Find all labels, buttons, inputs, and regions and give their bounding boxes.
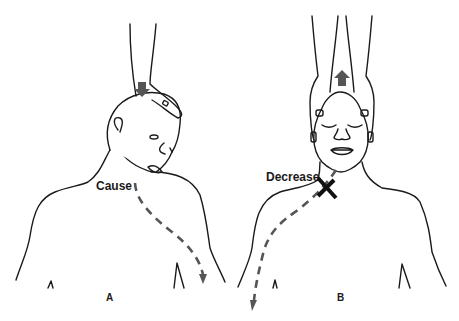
panel-b-armpit-left: [273, 280, 277, 288]
panel-b-annotation-decrease: Decrease: [266, 170, 319, 184]
panel-a-right-shoulder-outline: [152, 172, 225, 282]
panel-a-torso-outline: [16, 150, 110, 280]
panel-b-examiner-arm-right-outer: [366, 16, 374, 140]
panel-b-examiner-arm-right-inner: [346, 16, 354, 92]
panel-a-radiating-pain-path: [135, 183, 203, 275]
diagram-canvas: [0, 0, 459, 321]
panel-a-dash-arrowhead: [199, 274, 207, 284]
panel-b-armpit-right: [399, 264, 410, 288]
panel-b: [238, 16, 446, 311]
panel-b-label: B: [337, 292, 344, 303]
arrow-up-icon: [334, 70, 350, 86]
panel-a-armpit-right: [174, 263, 184, 288]
panel-b-head-outline: [314, 92, 369, 172]
panel-a-armpit-left: [48, 281, 53, 288]
panel-b-examiner-arm-left-inner: [330, 16, 338, 92]
panel-a-label: A: [106, 292, 113, 303]
panel-b-dash-arrowhead: [250, 300, 257, 311]
panel-a-head-outline: [107, 93, 180, 173]
panel-a-annotation-cause: Cause: [96, 179, 132, 193]
panel-a-examiner-arm: [130, 24, 136, 96]
panel-a: [16, 24, 225, 288]
panel-b-torso-right: [362, 162, 446, 286]
